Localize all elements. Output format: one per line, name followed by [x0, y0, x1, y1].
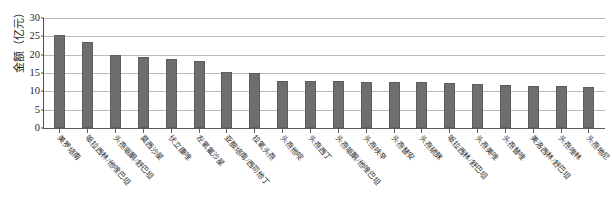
- x-label-slot: 伏立康唑: [157, 133, 185, 201]
- bar[interactable]: [221, 72, 232, 128]
- y-tick-label: 10: [30, 86, 45, 97]
- bar[interactable]: [444, 83, 455, 128]
- bar-slot: [102, 18, 130, 128]
- x-label-slot: 头孢他啶: [269, 133, 297, 201]
- bar-slot: [436, 18, 464, 128]
- bar-slot: [380, 18, 408, 128]
- x-label-slot: 美洛西林/舒巴坦: [519, 133, 547, 201]
- y-tick-label: 25: [30, 31, 45, 42]
- y-tick-label: 0: [35, 123, 44, 134]
- x-label-slot: 头孢唑林: [547, 133, 575, 201]
- bar-slot: [269, 18, 297, 128]
- bar[interactable]: [277, 81, 288, 128]
- bar-slot: [157, 18, 185, 128]
- bar[interactable]: [110, 55, 121, 128]
- bar[interactable]: [138, 57, 149, 128]
- bar[interactable]: [416, 82, 427, 128]
- bar[interactable]: [194, 61, 205, 128]
- x-label-slot: 拉氧头孢: [241, 133, 269, 201]
- x-tick-label: 头孢地尼: [584, 134, 611, 163]
- bar-slot: [408, 18, 436, 128]
- bar-slot: [352, 18, 380, 128]
- plot-area: 051015202530: [44, 18, 605, 128]
- x-label-slot: 头孢哌酮/他唑巴坦: [324, 133, 352, 201]
- x-label-slot: 头孢哌酮/舒巴坦: [102, 133, 130, 201]
- x-label-slot: 哌拉西林/舒巴坦: [436, 133, 464, 201]
- bar[interactable]: [528, 86, 539, 128]
- y-tick-label: 20: [30, 49, 45, 60]
- y-tick-label: 15: [30, 68, 45, 79]
- x-label-slot: 头孢西丁: [297, 133, 325, 201]
- bar-slot: [464, 18, 492, 128]
- x-label-slot: 头孢替安: [380, 133, 408, 201]
- x-axis-labels: 美罗培南哌拉西林/他唑巴坦头孢哌酮/舒巴坦莫西沙星伏立康唑左氧氟沙星亚胺培南/西…: [44, 133, 605, 201]
- bar-slot: [130, 18, 158, 128]
- bar[interactable]: [556, 86, 567, 128]
- bar[interactable]: [500, 85, 511, 128]
- bar-slot: [324, 18, 352, 128]
- bar-slot: [547, 18, 575, 128]
- bar[interactable]: [54, 35, 65, 129]
- bar[interactable]: [389, 82, 400, 128]
- x-label-slot: 亚胺培南/西司他丁: [213, 133, 241, 201]
- bar[interactable]: [166, 59, 177, 128]
- bar[interactable]: [333, 81, 344, 128]
- bar-slot: [74, 18, 102, 128]
- x-label-slot: 头孢呋辛: [352, 133, 380, 201]
- x-label-slot: 头孢替唑: [492, 133, 520, 201]
- bar[interactable]: [249, 73, 260, 128]
- bar-slot: [519, 18, 547, 128]
- bar[interactable]: [305, 81, 316, 128]
- bar[interactable]: [82, 42, 93, 128]
- bar-slot: [575, 18, 603, 128]
- bar[interactable]: [472, 84, 483, 128]
- bar[interactable]: [583, 87, 594, 128]
- x-label-slot: 头孢地尼: [575, 133, 603, 201]
- x-label-slot: 美罗培南: [46, 133, 74, 201]
- bar-slot: [46, 18, 74, 128]
- x-label-slot: 头孢美唑: [464, 133, 492, 201]
- bars-container: [44, 18, 605, 128]
- x-label-slot: 左氧氟沙星: [185, 133, 213, 201]
- y-tick-label: 30: [30, 13, 45, 24]
- x-label-slot: 哌拉西林/他唑巴坦: [74, 133, 102, 201]
- bar-slot: [213, 18, 241, 128]
- y-tick-label: 5: [35, 104, 44, 115]
- bar[interactable]: [361, 82, 372, 128]
- bar-slot: [297, 18, 325, 128]
- bar-slot: [241, 18, 269, 128]
- x-label-slot: 莫西沙星: [130, 133, 158, 201]
- x-label-slot: 头孢硫脒: [408, 133, 436, 201]
- y-axis-title: 金额（亿元）: [14, 0, 25, 95]
- bar-slot: [185, 18, 213, 128]
- bar-slot: [492, 18, 520, 128]
